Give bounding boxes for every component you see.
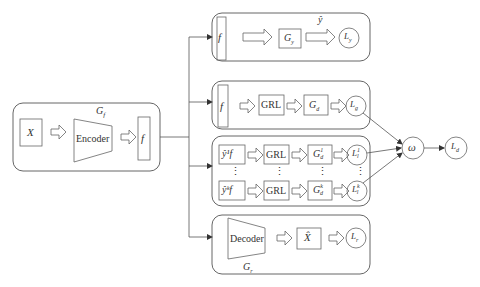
ellipsis: ⋮	[230, 166, 241, 177]
local-grl-label-1: GRL	[266, 150, 286, 160]
ellipsis: ⋮	[355, 166, 366, 177]
local-grl-label-k: GRL	[266, 186, 286, 196]
group-label-gr: Gr	[243, 262, 253, 274]
flow-arrow-icon	[306, 29, 335, 45]
group-label-gf: Gf	[96, 106, 105, 119]
local-loss-label-k: Lkl	[352, 185, 361, 194]
flow-arrow-icon	[51, 125, 66, 139]
loss-g-label: Lg	[350, 100, 358, 111]
reconstruction-x-hat-label: X̂	[304, 232, 311, 243]
ellipsis: ⋮	[274, 166, 285, 177]
decoder-label: Decoder	[230, 234, 264, 244]
disc-gd-label: Gd	[309, 100, 319, 112]
ellipsis: ⋮	[317, 166, 328, 177]
local-input-label-1: ŷ¹f	[222, 149, 232, 159]
omega-label: ω	[408, 142, 416, 153]
classifier-gy-label: Gy	[284, 33, 294, 45]
loss-r-label: Lr	[351, 232, 358, 243]
flow-arrow-icon	[121, 130, 136, 144]
global-domain-branch	[212, 81, 370, 129]
local-loss-label-1: L1l	[352, 149, 362, 158]
grl-label: GRL	[261, 100, 281, 110]
branch1-feature-label: f	[218, 32, 221, 43]
local-input-label-k: ŷᵏf	[222, 185, 232, 195]
local-disc-label-1: G1d	[313, 149, 326, 159]
feature-f-label: f	[141, 133, 144, 144]
reconstruction-branch	[212, 215, 370, 274]
loss-d-label: Ld	[451, 142, 459, 153]
prediction-y-hat-label: ŷ	[318, 15, 322, 25]
input-x-label: X	[27, 127, 34, 138]
branch2-feature-label: f	[220, 101, 223, 112]
encoder-label: Encoder	[76, 134, 109, 144]
local-disc-label-k: Gkd	[313, 185, 326, 195]
branch-connectors	[160, 37, 212, 237]
loss-y-label: Ly	[344, 32, 352, 43]
flow-arrow-icon	[243, 29, 272, 45]
